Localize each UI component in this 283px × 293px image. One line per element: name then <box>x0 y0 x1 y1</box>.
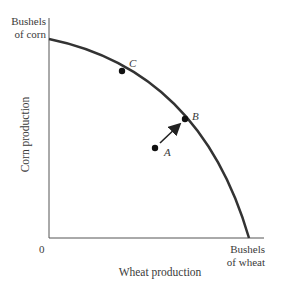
point-b-label: B <box>192 110 199 122</box>
point-c-label: C <box>129 57 136 69</box>
x-axis-unit: Bushels of wheat <box>220 243 265 269</box>
y-axis-label: Corn production <box>19 80 32 190</box>
x-unit-line2: of wheat <box>220 256 265 269</box>
frontier-curve <box>49 39 249 238</box>
y-axis-unit: Bushels of corn <box>6 15 46 41</box>
x-axis-label: Wheat production <box>100 266 220 279</box>
y-unit-line1: Bushels <box>6 15 46 28</box>
arrow-a-to-b <box>160 125 179 143</box>
point-c <box>119 68 125 74</box>
point-a <box>152 145 158 151</box>
point-b <box>182 116 188 122</box>
origin-label: 0 <box>39 243 45 256</box>
y-unit-line2: of corn <box>6 28 46 41</box>
point-a-label: A <box>164 146 171 158</box>
x-unit-line1: Bushels <box>220 243 265 256</box>
